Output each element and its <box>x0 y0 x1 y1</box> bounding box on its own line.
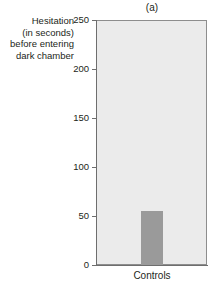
y-tick-label: 100 <box>29 162 89 172</box>
bar-controls <box>141 211 163 265</box>
y-tick-mark <box>92 216 96 217</box>
panel-title: (a) <box>96 2 208 14</box>
x-axis-category-label: Controls <box>96 270 208 282</box>
y-tick-mark <box>92 118 96 119</box>
y-tick-label: 250 <box>29 15 89 25</box>
y-tick-mark <box>92 265 96 266</box>
y-tick-mark <box>92 167 96 168</box>
y-tick-mark <box>92 20 96 21</box>
y-tick-label: 50 <box>29 211 89 221</box>
y-axis-label-line-4: dark chamber <box>0 50 74 62</box>
y-axis-label-line-2: (in seconds) <box>0 27 74 39</box>
y-tick-label: 0 <box>29 260 89 270</box>
bar-chart-figure: (a) Hesitation (in seconds) before enter… <box>0 0 219 288</box>
y-tick-label: 150 <box>29 113 89 123</box>
x-axis-line <box>96 265 208 266</box>
y-tick-mark <box>92 69 96 70</box>
y-axis-label-line-3: before entering <box>0 38 74 50</box>
y-tick-label: 200 <box>29 64 89 74</box>
y-axis-line <box>96 20 97 266</box>
